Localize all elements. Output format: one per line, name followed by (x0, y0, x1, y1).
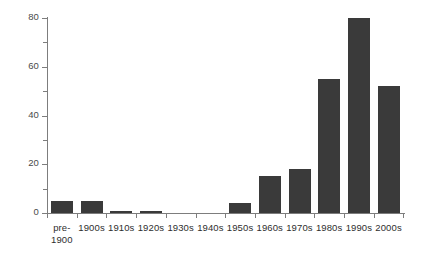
y-axis-line (47, 17, 48, 214)
y-tick-mark (42, 67, 47, 68)
bar-chart: 020406080 pre- 19001900s1910s1920s1930s1… (0, 0, 421, 257)
y-tick-label: 80 (28, 11, 39, 22)
x-tick-label: 2000s (366, 222, 412, 234)
bar (81, 201, 103, 213)
x-tick-mark (403, 213, 404, 218)
bar (289, 169, 311, 213)
x-tick-mark (166, 213, 167, 218)
x-tick-mark (255, 213, 256, 218)
x-tick-mark (136, 213, 137, 218)
x-tick-mark (225, 213, 226, 218)
bar (51, 201, 73, 213)
bar (318, 79, 340, 213)
bar (378, 86, 400, 213)
bar (229, 203, 251, 213)
y-tick-mark (43, 140, 47, 141)
x-tick-mark (374, 213, 375, 218)
x-tick-mark (47, 213, 48, 218)
y-tick-mark (42, 164, 47, 165)
x-tick-mark (106, 213, 107, 218)
y-tick-mark (42, 116, 47, 117)
x-tick-mark (196, 213, 197, 218)
x-tick-mark (285, 213, 286, 218)
y-tick-label: 60 (28, 60, 39, 71)
y-tick-label: 20 (28, 157, 39, 168)
y-tick-label: 0 (34, 206, 39, 217)
y-tick-mark (43, 42, 47, 43)
x-tick-mark (344, 213, 345, 218)
y-tick-mark (43, 189, 47, 190)
y-tick-label: 40 (28, 109, 39, 120)
y-tick-mark (42, 18, 47, 19)
bar (140, 211, 162, 213)
bar (110, 211, 132, 213)
x-tick-mark (314, 213, 315, 218)
x-tick-mark (77, 213, 78, 218)
bar (259, 176, 281, 213)
y-tick-mark (43, 91, 47, 92)
bar (348, 18, 370, 213)
